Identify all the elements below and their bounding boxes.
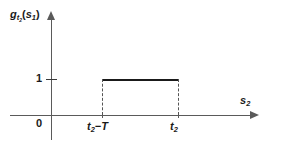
y-axis-label-base: g — [10, 8, 17, 20]
y-axis-label-paren-close: ) — [36, 8, 40, 20]
y-axis-label-arg-subscript: 1 — [32, 13, 36, 22]
x-tick-label-start-subscript: 2 — [91, 125, 95, 134]
x-axis-arrow-icon — [250, 111, 259, 119]
y-tick-label-one: 1 — [36, 72, 42, 84]
origin-label: 0 — [36, 117, 42, 129]
y-axis-arrow-icon — [47, 11, 55, 20]
x-tick-label-start-tail: −T — [95, 120, 108, 132]
x-axis-label-subscript: 2 — [246, 99, 250, 108]
x-tick-label-start: t2−T — [87, 120, 108, 132]
y-axis-label-sub-sub: 2 — [19, 17, 22, 23]
y-axis-label-arg: s — [26, 8, 32, 20]
x-axis-label: s2 — [240, 94, 250, 106]
y-axis-label-subscript: t2 — [17, 13, 22, 22]
x-tick-label-end: t2 — [170, 120, 178, 132]
pulse-right-edge-dashed — [178, 79, 179, 115]
pulse-top-line — [102, 79, 179, 81]
y-tick-mark-one — [46, 79, 57, 80]
y-axis-label: gt2(s1) — [10, 8, 40, 20]
x-tick-label-end-subscript: 2 — [174, 125, 178, 134]
x-axis-line — [10, 115, 252, 116]
pulse-left-edge-dashed — [102, 79, 103, 115]
pulse-function-figure: gt2(s1) s2 1 0 t2−T t2 — [0, 0, 285, 149]
